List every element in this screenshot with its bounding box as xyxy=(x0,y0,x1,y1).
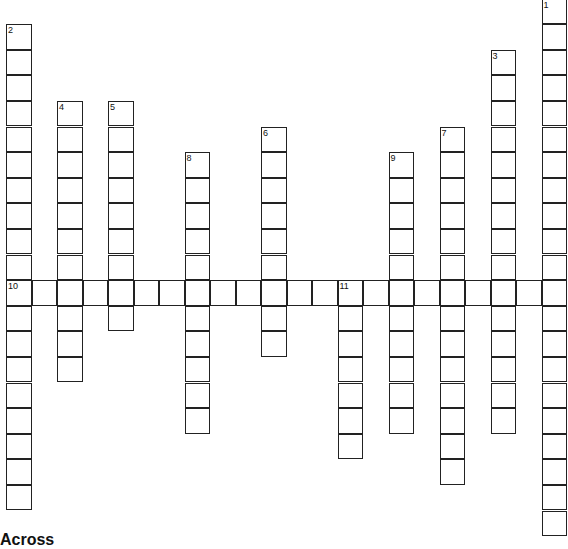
crossword-cell[interactable] xyxy=(32,280,58,306)
crossword-cell[interactable] xyxy=(261,306,287,332)
crossword-cell[interactable] xyxy=(440,229,466,255)
crossword-cell[interactable]: 6 xyxy=(261,127,287,153)
crossword-cell[interactable] xyxy=(312,280,338,306)
crossword-cell[interactable] xyxy=(185,255,211,281)
crossword-cell[interactable]: 2 xyxy=(6,24,32,50)
crossword-cell[interactable] xyxy=(57,203,83,229)
crossword-cell[interactable]: 8 xyxy=(185,152,211,178)
crossword-cell[interactable] xyxy=(261,331,287,357)
crossword-cell[interactable] xyxy=(6,127,32,153)
crossword-cell[interactable] xyxy=(542,255,568,281)
crossword-cell[interactable] xyxy=(389,331,415,357)
crossword-cell[interactable]: 4 xyxy=(57,101,83,127)
crossword-cell[interactable] xyxy=(6,101,32,127)
crossword-cell[interactable] xyxy=(185,280,211,306)
crossword-cell[interactable] xyxy=(108,280,134,306)
crossword-cell[interactable] xyxy=(389,280,415,306)
crossword-cell[interactable] xyxy=(389,178,415,204)
crossword-cell[interactable] xyxy=(185,331,211,357)
crossword-cell[interactable] xyxy=(440,408,466,434)
crossword-cell[interactable] xyxy=(542,383,568,409)
crossword-cell[interactable] xyxy=(159,280,185,306)
crossword-cell[interactable] xyxy=(414,280,440,306)
crossword-cell[interactable] xyxy=(389,306,415,332)
crossword-cell[interactable] xyxy=(491,408,517,434)
crossword-cell[interactable]: 11 xyxy=(338,280,364,306)
crossword-cell[interactable] xyxy=(338,383,364,409)
crossword-cell[interactable] xyxy=(210,280,236,306)
crossword-cell[interactable] xyxy=(6,75,32,101)
crossword-cell[interactable] xyxy=(287,280,313,306)
crossword-cell[interactable] xyxy=(185,229,211,255)
crossword-cell[interactable] xyxy=(338,434,364,460)
crossword-cell[interactable] xyxy=(389,255,415,281)
crossword-cell[interactable] xyxy=(440,357,466,383)
crossword-cell[interactable] xyxy=(185,306,211,332)
crossword-cell[interactable] xyxy=(185,357,211,383)
crossword-cell[interactable] xyxy=(134,280,160,306)
crossword-cell[interactable] xyxy=(108,203,134,229)
crossword-cell[interactable] xyxy=(491,255,517,281)
crossword-cell[interactable] xyxy=(261,255,287,281)
crossword-cell[interactable]: 10 xyxy=(6,280,32,306)
crossword-cell[interactable] xyxy=(491,357,517,383)
crossword-cell[interactable] xyxy=(542,24,568,50)
crossword-cell[interactable] xyxy=(57,127,83,153)
crossword-cell[interactable] xyxy=(57,229,83,255)
crossword-cell[interactable] xyxy=(542,178,568,204)
crossword-cell[interactable] xyxy=(261,203,287,229)
crossword-cell[interactable] xyxy=(6,306,32,332)
crossword-cell[interactable] xyxy=(491,306,517,332)
crossword-cell[interactable] xyxy=(440,152,466,178)
crossword-cell[interactable] xyxy=(389,408,415,434)
crossword-cell[interactable] xyxy=(542,331,568,357)
crossword-cell[interactable] xyxy=(57,306,83,332)
crossword-cell[interactable] xyxy=(57,280,83,306)
crossword-cell[interactable] xyxy=(542,203,568,229)
crossword-cell[interactable] xyxy=(6,229,32,255)
crossword-cell[interactable] xyxy=(261,280,287,306)
crossword-cell[interactable] xyxy=(491,75,517,101)
crossword-cell[interactable] xyxy=(261,152,287,178)
crossword-cell[interactable] xyxy=(6,331,32,357)
crossword-cell[interactable] xyxy=(6,152,32,178)
crossword-cell[interactable]: 9 xyxy=(389,152,415,178)
crossword-cell[interactable] xyxy=(440,280,466,306)
crossword-cell[interactable] xyxy=(6,434,32,460)
crossword-cell[interactable]: 5 xyxy=(108,101,134,127)
crossword-cell[interactable] xyxy=(6,459,32,485)
crossword-cell[interactable] xyxy=(491,229,517,255)
crossword-cell[interactable]: 7 xyxy=(440,127,466,153)
crossword-cell[interactable] xyxy=(261,178,287,204)
crossword-cell[interactable] xyxy=(6,178,32,204)
crossword-cell[interactable] xyxy=(236,280,262,306)
crossword-cell[interactable] xyxy=(338,306,364,332)
crossword-cell[interactable] xyxy=(491,101,517,127)
crossword-cell[interactable] xyxy=(108,178,134,204)
crossword-cell[interactable]: 1 xyxy=(542,0,568,24)
crossword-cell[interactable] xyxy=(185,178,211,204)
crossword-cell[interactable] xyxy=(6,203,32,229)
crossword-cell[interactable] xyxy=(389,383,415,409)
crossword-cell[interactable] xyxy=(491,331,517,357)
crossword-cell[interactable] xyxy=(185,383,211,409)
crossword-cell[interactable] xyxy=(440,331,466,357)
crossword-cell[interactable] xyxy=(6,50,32,76)
crossword-cell[interactable] xyxy=(542,485,568,511)
crossword-cell[interactable] xyxy=(108,229,134,255)
crossword-cell[interactable] xyxy=(542,408,568,434)
crossword-cell[interactable] xyxy=(261,229,287,255)
crossword-cell[interactable] xyxy=(57,331,83,357)
crossword-cell[interactable] xyxy=(338,408,364,434)
crossword-cell[interactable] xyxy=(542,306,568,332)
crossword-cell[interactable] xyxy=(108,306,134,332)
crossword-cell[interactable] xyxy=(542,50,568,76)
crossword-cell[interactable] xyxy=(389,203,415,229)
crossword-cell[interactable] xyxy=(6,408,32,434)
crossword-cell[interactable] xyxy=(440,178,466,204)
crossword-cell[interactable] xyxy=(491,383,517,409)
crossword-cell[interactable] xyxy=(542,75,568,101)
crossword-cell[interactable] xyxy=(57,357,83,383)
crossword-cell[interactable] xyxy=(491,203,517,229)
crossword-cell[interactable] xyxy=(185,203,211,229)
